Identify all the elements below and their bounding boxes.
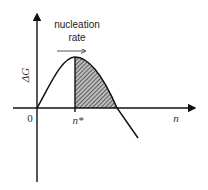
x-axis-label: n (173, 112, 179, 124)
shaded-region (75, 57, 117, 108)
y-axis-label: ΔG (19, 68, 31, 83)
annotation-line2: rate (68, 32, 86, 43)
annotation-line1: nucleation (54, 19, 100, 30)
nucleation-free-energy-diagram: nucleation rate ΔG 0 n* n (0, 0, 208, 190)
critical-size-label: n* (73, 114, 85, 126)
origin-label: 0 (27, 112, 33, 124)
